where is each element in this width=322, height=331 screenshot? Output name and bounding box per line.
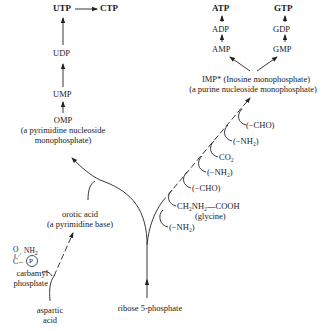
amp-label: AMP [212, 44, 230, 54]
ump-label: UMP [53, 89, 71, 99]
carbamyl-label-2: phosphate [0, 278, 48, 288]
atp-label: ATP [212, 3, 229, 13]
utp-label: UTP [53, 3, 71, 13]
aspartic-acid-label-1: aspartic [30, 305, 70, 315]
orotic-acid-desc: (a pyrimidine base) [40, 219, 120, 229]
gmp-label: GMP [273, 44, 291, 54]
udp-label: UDP [53, 48, 70, 58]
imp-label: IMP* (Inosine monophosphate) [190, 74, 322, 84]
addition-amine-2: (−NH₂) [207, 167, 233, 177]
omp-desc-2: monophosphate) [0, 135, 126, 145]
omp-label: OMP [0, 115, 126, 125]
phosphate-symbol: P [29, 256, 33, 266]
ribose-5-phosphate-label: ribose 5-phosphate [110, 303, 190, 313]
omp-desc-1: (a pyrimidine nucleoside [0, 125, 126, 135]
aspartic-acid-label-2: acid [30, 315, 70, 325]
addition-glycine-formula: CH₂NH₂—COOH [177, 201, 240, 211]
addition-amine-1: (−NH₂) [169, 222, 195, 232]
adp-label: ADP [212, 24, 229, 34]
imp-desc: (a purine nucleoside monophosphate) [184, 84, 322, 94]
gdp-label: GDP [273, 24, 290, 34]
bond-up: ⁄ [19, 250, 20, 260]
carbon-atom: C [13, 257, 18, 267]
addition-glycine-name: (glycine) [195, 211, 226, 221]
addition-formyl-1: (−CHO) [192, 183, 220, 193]
ctp-label: CTP [100, 3, 118, 13]
addition-co2: CO₂ [219, 152, 234, 162]
addition-formyl-2: (−CHO) [246, 120, 274, 130]
orotic-acid-label: orotic acid [40, 209, 120, 219]
addition-amine-3: (−NH₂) [233, 136, 259, 146]
gtp-label: GTP [274, 3, 293, 13]
carbamyl-label-1: carbamyl [0, 268, 48, 278]
